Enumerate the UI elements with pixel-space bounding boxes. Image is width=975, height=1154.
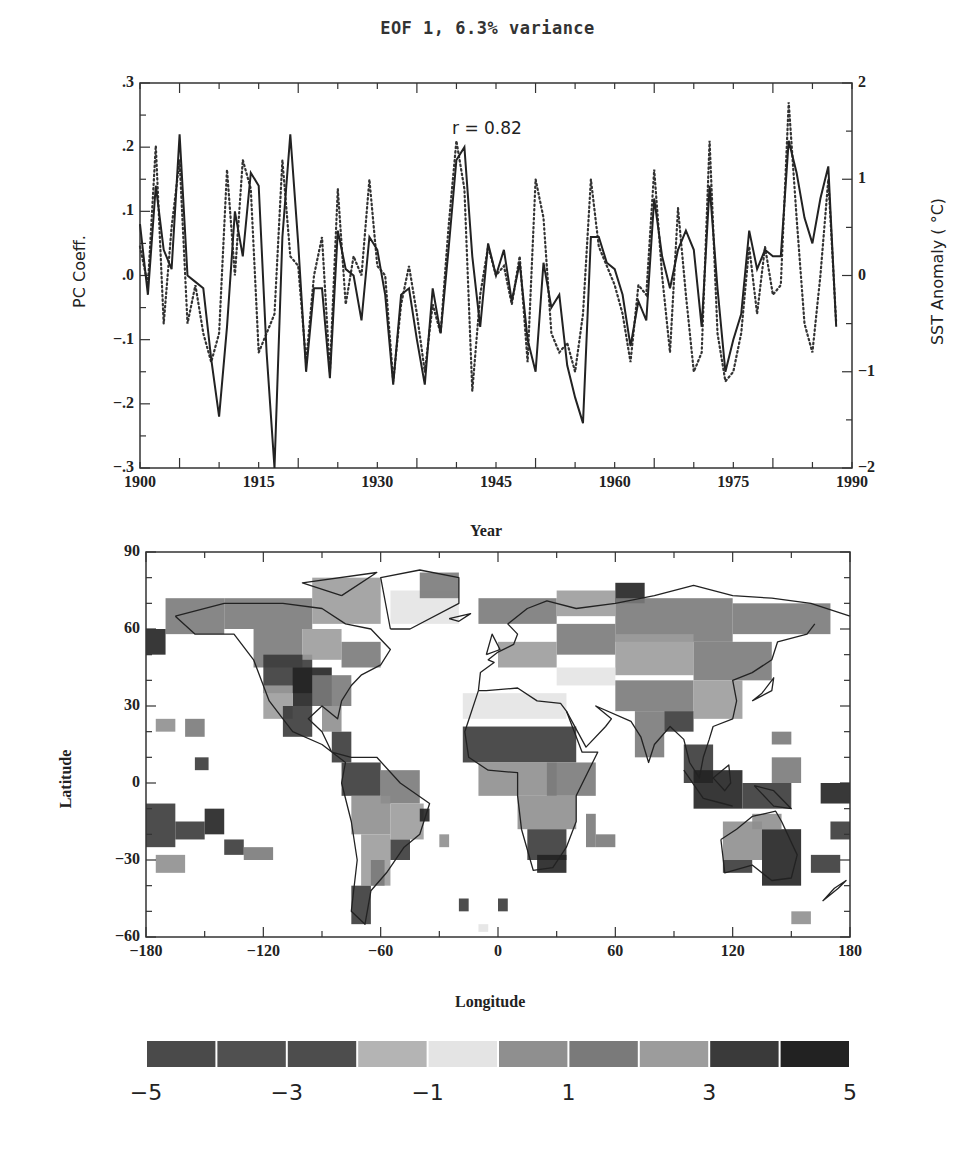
y-tick-label-left: −.1 <box>54 330 134 348</box>
y-tick-label-left: −.2 <box>54 394 134 412</box>
y-tick-label-right: 0 <box>858 266 866 284</box>
x-tick-label: 1975 <box>693 473 773 491</box>
y-tick-label-left: .0 <box>54 266 134 284</box>
x-axis-title-longitude: Longitude <box>455 993 525 1011</box>
y-tick-label-right: 2 <box>858 73 866 91</box>
latitude-tick-label: 60 <box>60 619 140 637</box>
map-chart: −180−120−600601201809060300−30−60 Latitu… <box>0 540 975 1040</box>
colorbar-tick-label: −3 <box>247 1080 327 1105</box>
y-tick-label-left: .3 <box>54 73 134 91</box>
timeseries-chart: 1900191519301945196019751990.3.2.1.0−.1−… <box>0 0 975 560</box>
y-tick-label-right: −2 <box>858 458 875 476</box>
x-tick-label: 1915 <box>219 473 299 491</box>
y-tick-label-left: .2 <box>54 137 134 155</box>
longitude-tick-label: 0 <box>458 942 538 960</box>
latitude-tick-label: −30 <box>60 850 140 868</box>
latitude-tick-label: −60 <box>60 927 140 945</box>
y-tick-label-left: .1 <box>54 201 134 219</box>
latitude-tick-label: 90 <box>60 542 140 560</box>
x-axis-title-year: Year <box>470 522 502 540</box>
x-tick-label: 1945 <box>456 473 536 491</box>
colorbar-tick-label: 3 <box>669 1080 749 1105</box>
colorbar-tick-label: 1 <box>528 1080 608 1105</box>
colorbar: −5−3−1135 <box>0 1030 975 1154</box>
x-tick-label: 1930 <box>337 473 417 491</box>
y-axis-title-left: PC Coeff. <box>70 227 89 317</box>
longitude-tick-label: 120 <box>693 942 773 960</box>
y-tick-label-right: −1 <box>858 362 875 380</box>
longitude-tick-label: −120 <box>223 942 303 960</box>
longitude-tick-label: −60 <box>341 942 421 960</box>
latitude-tick-label: 30 <box>60 696 140 714</box>
y-tick-label-left: −.3 <box>54 458 134 476</box>
colorbar-tick-label: −5 <box>106 1080 186 1105</box>
colorbar-tick-label: −1 <box>388 1080 468 1105</box>
y-axis-title-right: SST Anomaly ( °C) <box>928 187 947 357</box>
x-tick-label: 1990 <box>812 473 892 491</box>
map-plot-area <box>0 540 975 1040</box>
correlation-annotation: r = 0.82 <box>452 118 522 138</box>
y-tick-label-right: 1 <box>858 169 866 187</box>
x-tick-label: 1960 <box>575 473 655 491</box>
longitude-tick-label: 180 <box>810 942 890 960</box>
colorbar-tick-label: 5 <box>810 1080 890 1105</box>
y-axis-title-latitude: Latitude <box>57 739 75 819</box>
longitude-tick-label: 60 <box>575 942 655 960</box>
